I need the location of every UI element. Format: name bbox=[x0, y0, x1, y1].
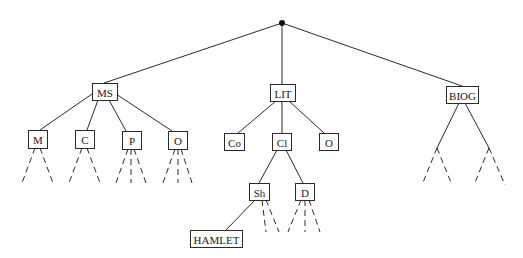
node-label: HAMLET bbox=[194, 234, 240, 246]
tree-diagram: MSLITBIOGMCPOCoClOShDHAMLET bbox=[0, 0, 523, 258]
tree-dashed-edge bbox=[22, 148, 35, 183]
tree-edge bbox=[226, 200, 255, 230]
node-label: P bbox=[129, 135, 135, 147]
tree-node-p: P bbox=[123, 132, 142, 150]
tree-edge bbox=[104, 23, 282, 83]
tree-node-o2: O bbox=[320, 134, 339, 151]
tree-node-m: M bbox=[29, 131, 48, 149]
root-node-dot bbox=[279, 20, 285, 26]
tree-node-ms: MS bbox=[93, 84, 118, 101]
tree-dashed-edge bbox=[309, 200, 320, 232]
tree-dashed-edge bbox=[474, 148, 489, 185]
node-label: M bbox=[33, 134, 43, 146]
node-label: LIT bbox=[274, 88, 291, 100]
tree-dashed-edge bbox=[181, 149, 192, 183]
tree-dashed-edge bbox=[87, 148, 100, 183]
tree-node-cl: Cl bbox=[273, 134, 292, 151]
tree-node-co: Co bbox=[225, 134, 245, 151]
node-label: D bbox=[301, 187, 309, 199]
tree-edge bbox=[238, 101, 276, 133]
tree-dashed-edge bbox=[69, 148, 82, 183]
tree-edge bbox=[437, 103, 459, 148]
tree-nodes: MSLITBIOGMCPOCoClOShDHAMLET bbox=[29, 84, 479, 248]
tree-dashed-edge bbox=[288, 200, 301, 232]
tree-edge bbox=[109, 100, 126, 131]
tree-dashed-edge bbox=[40, 148, 53, 183]
tree-node-d: D bbox=[296, 184, 315, 201]
tree-edge bbox=[87, 100, 98, 130]
tree-node-lit: LIT bbox=[271, 85, 296, 102]
tree-node-o1: O bbox=[169, 132, 188, 150]
node-label: Cl bbox=[277, 137, 287, 149]
tree-edge bbox=[116, 94, 172, 131]
node-label: BIOG bbox=[449, 90, 476, 102]
tree-dashed-edge bbox=[266, 200, 279, 232]
node-label: MS bbox=[97, 87, 113, 99]
tree-node-c: C bbox=[76, 131, 95, 149]
tree-dashed-edge bbox=[489, 148, 505, 185]
tree-edge bbox=[286, 150, 303, 183]
tree-dashed-edge bbox=[437, 148, 452, 185]
tree-node-biog: BIOG bbox=[447, 87, 479, 104]
node-label: Co bbox=[228, 137, 241, 149]
tree-dashed-edge bbox=[116, 149, 128, 183]
tree-dashed-edge bbox=[134, 149, 146, 183]
tree-edge bbox=[40, 94, 92, 130]
tree-dashed-edge bbox=[422, 148, 437, 185]
node-label: Sh bbox=[254, 187, 266, 199]
tree-dashed-edge bbox=[262, 200, 266, 232]
tree-node-hamlet: HAMLET bbox=[191, 231, 243, 248]
node-label: O bbox=[325, 137, 333, 149]
tree-edge bbox=[289, 101, 324, 133]
tree-edge bbox=[259, 150, 277, 183]
node-label: O bbox=[174, 135, 182, 147]
node-label: C bbox=[81, 134, 88, 146]
tree-node-sh: Sh bbox=[250, 184, 270, 201]
tree-edge bbox=[282, 23, 462, 86]
tree-dashed-edge bbox=[163, 149, 175, 183]
tree-edge bbox=[465, 103, 489, 148]
